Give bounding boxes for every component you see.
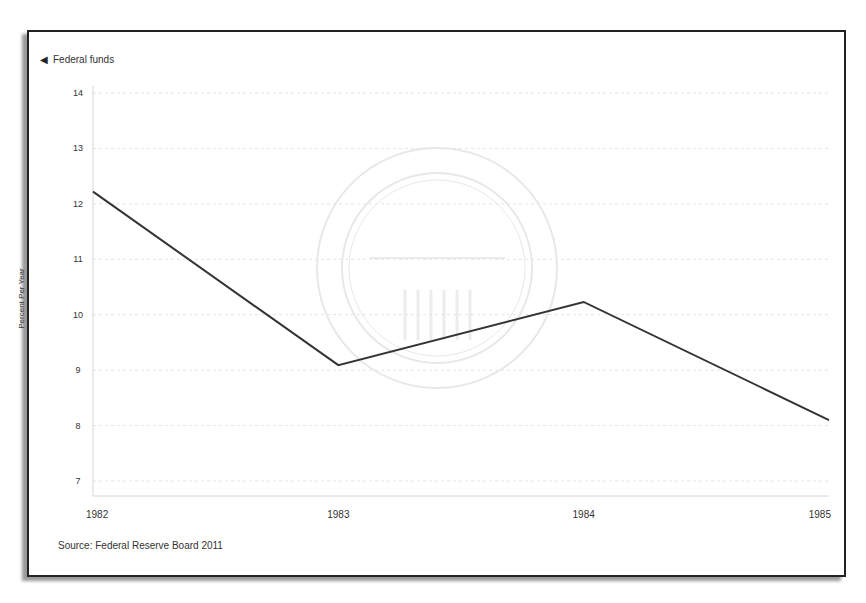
y-tick-label: 13 (73, 143, 83, 153)
x-axis-ticks: 1982198319841985 (86, 509, 831, 520)
y-tick-label: 7 (75, 476, 80, 486)
legend-label: Federal funds (53, 54, 114, 65)
y-tick-label: 9 (75, 365, 80, 375)
legend: ◀ Federal funds (40, 54, 114, 65)
source-note: Source: Federal Reserve Board 2011 (58, 540, 223, 551)
x-tick-label: 1983 (327, 509, 350, 520)
federal-reserve-seal-watermark (317, 148, 557, 388)
x-tick-label: 1984 (573, 509, 596, 520)
x-tick-label: 1982 (86, 509, 109, 520)
y-tick-label: 10 (73, 310, 83, 320)
y-tick-label: 14 (73, 88, 83, 98)
triangle-left-icon: ◀ (40, 54, 48, 65)
y-axis-label: Percent Per Year (17, 254, 26, 344)
x-tick-label: 1985 (809, 509, 832, 520)
y-tick-label: 12 (73, 199, 83, 209)
line-chart: 7891011121314 1982198319841985 (0, 0, 866, 603)
y-tick-label: 8 (75, 421, 80, 431)
y-tick-label: 11 (73, 254, 82, 264)
y-axis-ticks: 7891011121314 (73, 88, 83, 486)
